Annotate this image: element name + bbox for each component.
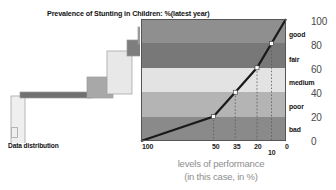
y-axis-tick-40: 40 — [311, 88, 335, 99]
distribution-step — [138, 27, 140, 44]
data-distribution-label: Data distribution — [8, 142, 59, 149]
data-point-marker[interactable] — [233, 90, 237, 94]
x-axis-caption: levels of performance (in this case, in … — [141, 158, 301, 183]
page-title: Prevalence of Stunting in Children: %(la… — [47, 9, 210, 18]
x-axis-tick-100: 100 — [142, 143, 153, 150]
y-axis-tick-60: 60 — [311, 64, 335, 75]
band-label-medium: medium — [289, 79, 314, 86]
data-distribution-legend-swatch — [11, 127, 18, 138]
y-axis-tick-20: 20 — [311, 112, 335, 123]
data-point-marker[interactable] — [270, 41, 274, 45]
y-axis-tick-0: 0 — [311, 136, 335, 147]
performance-curve — [141, 19, 286, 141]
data-distribution-panel — [0, 18, 140, 143]
distribution-step — [20, 92, 92, 98]
data-distribution-steps — [0, 18, 140, 143]
figure-root: Prevalence of Stunting in Children: %(la… — [0, 0, 336, 190]
band-label-poor: poor — [289, 103, 304, 110]
x-axis-caption-line2: (in this case, in %) — [141, 171, 301, 184]
distribution-step — [107, 51, 132, 94]
x-axis-tick-0: 0 — [285, 143, 289, 150]
band-label-bad: bad — [289, 126, 301, 133]
x-axis-tick-35: 35 — [233, 143, 241, 150]
x-axis-caption-line1: levels of performance — [141, 158, 301, 171]
data-point-marker[interactable] — [255, 66, 259, 70]
x-axis-tick-10: 10 — [268, 149, 276, 156]
performance-curve-line — [141, 19, 286, 141]
x-axis-tick-50: 50 — [212, 143, 220, 150]
y-axis-tick-100: 100 — [311, 16, 335, 27]
band-label-good: good — [289, 31, 305, 38]
band-label-fair: fair — [289, 56, 299, 63]
y-axis-tick-80: 80 — [311, 40, 335, 51]
data-point-marker[interactable] — [212, 115, 216, 119]
x-axis-tick-20: 20 — [254, 143, 262, 150]
performance-plot — [141, 19, 286, 141]
